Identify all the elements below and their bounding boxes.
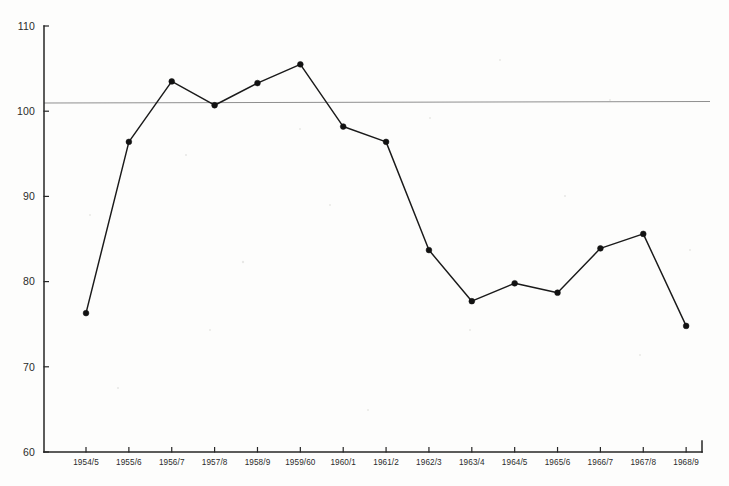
data-point-marker (640, 231, 646, 237)
data-point-marker (383, 139, 389, 145)
x-tick-label: 1960/1 (330, 458, 356, 467)
x-tick-label: 1963/4 (459, 458, 485, 467)
chart-background (0, 0, 729, 486)
data-point-marker (555, 290, 561, 296)
data-point-marker (297, 61, 303, 67)
data-point-marker (469, 298, 475, 304)
x-tick-label: 1954/5 (73, 458, 99, 467)
data-point-marker (426, 247, 432, 253)
x-tick-label: 1958/9 (245, 458, 271, 467)
x-tick-label: 1967/8 (630, 458, 656, 467)
x-tick-label: 1964/5 (502, 458, 528, 467)
y-tick-label: 90 (23, 190, 35, 202)
x-tick-label: 1959/60 (285, 458, 316, 467)
data-point-marker (683, 323, 689, 329)
data-point-marker (598, 245, 604, 251)
y-tick-label: 110 (18, 20, 35, 32)
x-tick-label: 1955/6 (116, 458, 142, 467)
chart-figure: 60708090100110 1954/51955/61956/71957/81… (0, 0, 729, 486)
data-point-marker (512, 280, 518, 286)
y-tick-label: 100 (17, 105, 35, 117)
x-tick-label: 1961/2 (373, 458, 399, 467)
y-tick-label: 80 (23, 275, 35, 287)
x-tick-label-group: 1954/51955/61956/71957/81958/91959/60196… (73, 458, 699, 467)
x-tick-label: 1962/3 (416, 458, 442, 467)
data-point-marker (212, 102, 218, 108)
data-point-marker (169, 78, 175, 84)
x-tick-label: 1957/8 (202, 458, 228, 467)
x-tick-label: 1968/9 (673, 458, 699, 467)
data-point-marker (126, 139, 132, 145)
x-tick-label: 1965/6 (545, 458, 571, 467)
x-tick-label: 1956/7 (159, 458, 185, 467)
y-tick-label: 60 (23, 446, 35, 458)
y-tick-label: 70 (23, 361, 35, 373)
data-point-marker (83, 310, 89, 316)
data-point-marker (340, 124, 346, 130)
line-chart: 60708090100110 1954/51955/61956/71957/81… (0, 0, 729, 486)
data-point-marker (255, 80, 261, 86)
x-tick-label: 1966/7 (588, 458, 614, 467)
